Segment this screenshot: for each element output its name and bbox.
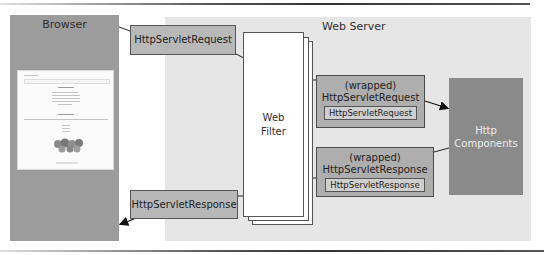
web-filter-label-line2: Filter <box>261 125 286 139</box>
wrapped-request-caption-line1: (wrapped) <box>317 80 424 92</box>
wrapped-response-caption-line1: (wrapped) <box>317 152 433 164</box>
http-components-line2: Components <box>454 137 517 150</box>
web-filter-label: Web Filter <box>261 111 286 139</box>
http-components-line1: Http <box>454 124 517 137</box>
inner-response-box: HttpServletResponse <box>325 178 424 192</box>
wrapped-request-caption: (wrapped) HttpServletRequest <box>317 80 424 104</box>
http-components-box: Http Components <box>449 78 523 195</box>
wrapped-response-caption-line2: HttpServletResponse <box>317 164 433 176</box>
web-filter-label-line1: Web <box>261 111 286 125</box>
wrapped-request-caption-line2: HttpServletRequest <box>317 92 424 104</box>
web-filter-box: Web Filter <box>243 32 304 217</box>
wrapped-response-caption: (wrapped) HttpServletResponse <box>317 152 433 176</box>
inner-request-box: HttpServletRequest <box>324 106 417 120</box>
http-servlet-response-box: HttpServletResponse <box>130 190 238 219</box>
http-servlet-request-box: HttpServletRequest <box>130 25 236 55</box>
wrapped-request-box: (wrapped) HttpServletRequest HttpServlet… <box>316 75 425 128</box>
wrapped-response-box: (wrapped) HttpServletResponse HttpServle… <box>316 147 434 197</box>
